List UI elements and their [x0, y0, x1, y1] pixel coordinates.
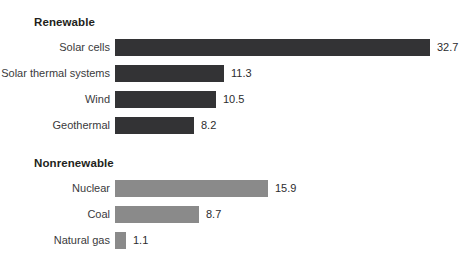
bar-wind — [115, 91, 216, 108]
bar-row: Wind10.5 — [0, 91, 471, 108]
bar-row: Geothermal8.2 — [0, 117, 471, 134]
bar-value-coal: 8.7 — [206, 206, 221, 223]
bar-row: Coal8.7 — [0, 206, 471, 223]
bar-row: Nuclear15.9 — [0, 180, 471, 197]
bar-label-coal: Coal — [0, 206, 110, 223]
bar-label-solar-thermal-systems: Solar thermal systems — [0, 65, 110, 82]
bar-label-solar-cells: Solar cells — [0, 39, 110, 56]
bar-label-natural-gas: Natural gas — [0, 232, 110, 249]
bar-solar-cells — [115, 39, 430, 56]
bar-value-nuclear: 15.9 — [275, 180, 296, 197]
bar-row: Solar thermal systems11.3 — [0, 65, 471, 82]
bar-value-geothermal: 8.2 — [201, 117, 216, 134]
bar-solar-thermal-systems — [115, 65, 224, 82]
bar-natural-gas — [115, 232, 126, 249]
bar-row: Natural gas1.1 — [0, 232, 471, 249]
group-heading-renewable: Renewable — [34, 16, 95, 28]
bar-value-solar-cells: 32.7 — [437, 39, 458, 56]
bar-label-nuclear: Nuclear — [0, 180, 110, 197]
bar-coal — [115, 206, 199, 223]
group-heading-nonrenewable: Nonrenewable — [34, 157, 114, 169]
bar-label-wind: Wind — [0, 91, 110, 108]
bar-geothermal — [115, 117, 194, 134]
bar-row: Solar cells32.7 — [0, 39, 471, 56]
bar-value-wind: 10.5 — [223, 91, 244, 108]
bar-value-natural-gas: 1.1 — [133, 232, 148, 249]
bar-nuclear — [115, 180, 268, 197]
bar-label-geothermal: Geothermal — [0, 117, 110, 134]
bar-value-solar-thermal-systems: 11.3 — [231, 65, 252, 82]
bar-chart: RenewableSolar cells32.7Solar thermal sy… — [0, 0, 471, 262]
